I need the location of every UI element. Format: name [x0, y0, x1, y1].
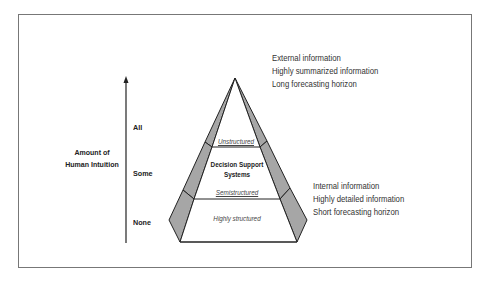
- annotation-detailed: Highly detailed information: [313, 193, 404, 206]
- annotation-external: External information: [272, 52, 378, 65]
- annotation-internal: Internal information: [313, 180, 404, 193]
- band-unstructured: Unstructured: [208, 138, 264, 145]
- level-all: All: [133, 123, 142, 132]
- band-semistructured: Semistructured: [204, 189, 271, 196]
- annotation-long-horizon: Long forecasting horizon: [272, 78, 378, 91]
- axis-title-line2: Human Intuition: [57, 159, 127, 171]
- dss-title: Decision Support Systems: [203, 160, 271, 180]
- annotation-summarized: Highly summarized information: [272, 65, 378, 78]
- top-annotations: External information Highly summarized i…: [272, 52, 378, 91]
- dss-title-line1: Decision Support: [203, 160, 271, 170]
- annotation-short-horizon: Short forecasting horizon: [313, 206, 404, 219]
- axis-title: Amount of Human Intuition: [57, 147, 127, 171]
- axis-title-line1: Amount of: [57, 147, 127, 159]
- level-some: Some: [133, 169, 153, 178]
- bottom-annotations: Internal information Highly detailed inf…: [313, 180, 404, 219]
- level-none: None: [133, 218, 151, 227]
- dss-title-line2: Systems: [203, 170, 271, 180]
- band-highly-structured: Highly structured: [199, 215, 275, 222]
